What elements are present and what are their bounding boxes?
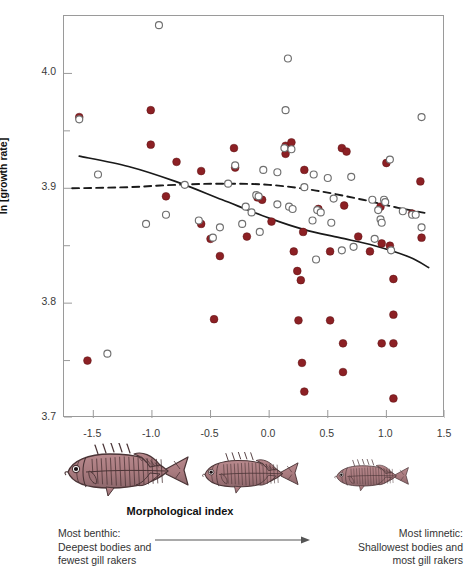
- data-point-open: [288, 146, 295, 153]
- data-point-filled: [147, 141, 155, 149]
- data-point-open: [225, 180, 232, 187]
- data-point-filled: [295, 316, 303, 324]
- data-point-open: [330, 195, 337, 202]
- data-point-open: [309, 217, 316, 224]
- plot-area: [63, 15, 444, 417]
- data-point-filled: [418, 234, 426, 242]
- data-point-open: [418, 224, 425, 231]
- data-point-filled: [230, 144, 238, 152]
- data-point-open: [310, 171, 317, 178]
- data-point-filled: [416, 177, 424, 185]
- data-point-open: [371, 235, 378, 242]
- data-point-open: [324, 174, 331, 181]
- scatter-plot-svg: [64, 16, 445, 418]
- y-tick-label: 3.8: [20, 295, 56, 307]
- data-points-group: [75, 22, 425, 403]
- data-point-filled: [216, 252, 224, 260]
- data-point-filled: [147, 106, 155, 114]
- data-point-filled: [297, 276, 305, 284]
- data-point-open: [104, 350, 111, 357]
- data-point-open: [248, 209, 255, 216]
- data-point-open: [378, 219, 385, 226]
- data-point-open: [412, 211, 419, 218]
- x-tick-label: -0.5: [188, 427, 232, 439]
- data-point-filled: [340, 202, 348, 210]
- data-point-open: [260, 166, 267, 173]
- data-point-open: [313, 256, 320, 263]
- data-point-filled: [299, 228, 307, 236]
- data-point-open: [386, 156, 393, 163]
- y-tick-label: 3.9: [20, 180, 56, 192]
- data-point-open: [388, 247, 395, 254]
- data-point-open: [143, 220, 150, 227]
- data-point-filled: [378, 339, 386, 347]
- data-point-filled: [197, 167, 205, 175]
- data-point-open: [162, 211, 169, 218]
- data-point-open: [274, 169, 281, 176]
- data-point-open: [242, 203, 249, 210]
- data-point-filled: [339, 368, 347, 376]
- x-tick-label: 0.5: [305, 427, 349, 439]
- data-point-open: [289, 205, 296, 212]
- y-axis-title: ln [growth rate]: [0, 116, 9, 236]
- data-point-open: [301, 184, 308, 191]
- data-point-open: [375, 207, 382, 214]
- data-point-filled: [268, 218, 276, 226]
- data-point-filled: [84, 357, 92, 365]
- direction-arrow-icon: [155, 533, 315, 547]
- data-point-filled: [326, 316, 334, 324]
- data-point-open: [328, 219, 335, 226]
- data-point-open: [284, 55, 291, 62]
- data-point-open: [239, 220, 246, 227]
- data-point-open: [76, 116, 83, 123]
- data-point-open: [399, 208, 406, 215]
- data-point-open: [338, 247, 345, 254]
- data-point-open: [281, 145, 288, 152]
- y-tick-label: 4.0: [20, 65, 56, 77]
- data-point-filled: [354, 233, 362, 241]
- data-point-filled: [173, 158, 181, 166]
- data-point-open: [209, 234, 216, 241]
- data-point-open: [350, 243, 357, 250]
- data-point-filled: [300, 166, 308, 174]
- data-point-open: [95, 171, 102, 178]
- data-point-open: [195, 217, 202, 224]
- data-point-filled: [162, 192, 170, 200]
- data-point-filled: [339, 339, 347, 347]
- x-tick-label: -1.0: [129, 427, 173, 439]
- data-point-filled: [378, 240, 386, 248]
- x-tick-label: 1.0: [363, 427, 407, 439]
- data-point-filled: [293, 267, 301, 275]
- x-tick-label: -1.5: [70, 427, 114, 439]
- data-point-filled: [390, 395, 398, 403]
- data-point-filled: [390, 311, 398, 319]
- data-point-open: [369, 196, 376, 203]
- data-point-filled: [290, 248, 298, 256]
- annotation-most-limnetic: Most limnetic: Shallowest bodies and mos…: [358, 527, 463, 568]
- data-point-open: [155, 22, 162, 29]
- data-point-open: [348, 173, 355, 180]
- data-point-filled: [210, 315, 218, 323]
- data-point-filled: [326, 248, 334, 256]
- data-point-filled: [298, 359, 306, 367]
- data-point-open: [282, 107, 289, 114]
- data-point-open: [181, 181, 188, 188]
- annotation-most-benthic: Most benthic: Deepest bodies and fewest …: [58, 527, 151, 568]
- data-point-filled: [300, 388, 308, 396]
- fish-illustration-intermediate: [200, 452, 303, 501]
- data-point-open: [232, 162, 239, 169]
- y-tick-label: 3.7: [20, 410, 56, 422]
- data-point-filled: [390, 339, 398, 347]
- x-tick-label: 1.5: [422, 427, 466, 439]
- figure-panel: 4.03.93.83.7 -1.5-1.0-0.50.00.51.01.5 ln…: [0, 0, 471, 576]
- data-point-open: [255, 193, 262, 200]
- data-point-open: [317, 209, 324, 216]
- data-point-open: [216, 224, 223, 231]
- fish-illustration-limnetic: [333, 459, 412, 498]
- data-point-filled: [343, 148, 351, 156]
- data-point-open: [418, 114, 425, 121]
- x-axis-title: Morphological index: [0, 505, 360, 517]
- fish-illustration-benthic: [62, 443, 194, 505]
- x-tick-label: 0.0: [246, 427, 290, 439]
- data-point-filled: [390, 275, 398, 283]
